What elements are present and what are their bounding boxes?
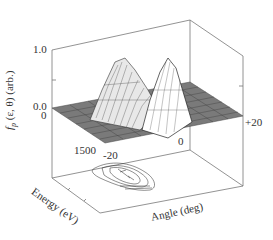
x-tick-max: +20 xyxy=(245,117,262,128)
y-tick-0: 0 xyxy=(41,110,47,121)
x-tick-mid: 0 xyxy=(178,136,184,147)
floor-contour xyxy=(92,163,154,190)
z-tick-1: 1.0 xyxy=(33,44,47,55)
x-tick-min: -20 xyxy=(103,150,118,161)
surface-mesh xyxy=(52,58,243,143)
y-tick-1500: 1500 xyxy=(74,145,96,156)
z-axis-label: fp (ε, θ) (arb.) xyxy=(4,71,19,130)
